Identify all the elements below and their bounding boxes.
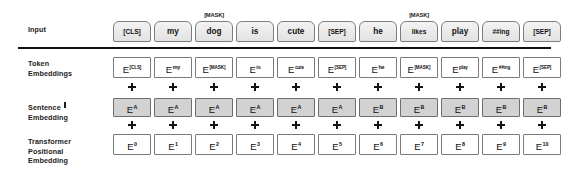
plus-icon [128, 83, 136, 91]
input-token-label: [CLS] [123, 28, 141, 35]
plus-icon [538, 83, 546, 91]
plus-slot [113, 82, 151, 92]
input-token-label: [SEP] [328, 28, 346, 35]
positional-embedding-symbol: E [250, 142, 256, 152]
positional-embedding-symbol: E [496, 142, 502, 152]
mask-annotation: [MASK] [204, 12, 224, 18]
plus-icon [374, 121, 382, 129]
plus-slot [482, 82, 520, 92]
positional-embedding-cell-0: E0 [113, 134, 151, 155]
token-embedding-subscript: my [173, 65, 181, 70]
plus-slot [113, 120, 151, 130]
sentence-embedding-symbol: E [455, 105, 461, 115]
positional-embedding-symbol: E [209, 142, 215, 152]
token-embedding-subscript: he [378, 65, 384, 70]
plus-icon [333, 83, 341, 91]
positional-embedding-symbol: E [455, 142, 461, 152]
plus-icon [292, 121, 300, 129]
sentence-embedding-symbol: E [127, 105, 133, 115]
positional-embedding-row: E0E1E2E3E4E5E6E7E8E9E10 [113, 134, 561, 155]
sentence-embedding-symbol: E [332, 105, 338, 115]
token-embedding-cell-8: Eplay [441, 57, 479, 78]
token-embedding-subscript: ##ing [499, 65, 511, 70]
sentence-embedding-subscript: B [380, 105, 384, 110]
positional-embedding-subscript: 6 [380, 142, 383, 147]
token-embedding-symbol: E [203, 65, 209, 75]
token-embedding-cell-6: Ehe [359, 57, 397, 78]
token-embedding-symbol: E [372, 65, 378, 75]
input-token-3[interactable]: is [236, 21, 274, 42]
positional-embedding-subscript: 7 [421, 142, 424, 147]
sentence-embedding-symbol: E [209, 105, 215, 115]
row-label-token-line2: Embeddings [28, 69, 110, 79]
plus-icon [292, 83, 300, 91]
dagger-mark [64, 102, 66, 108]
input-token-label: ##ing [492, 28, 509, 35]
sentence-embedding-subscript: B [421, 105, 425, 110]
positional-embedding-symbol: E [332, 142, 338, 152]
input-token-7[interactable]: likes[MASK] [400, 21, 438, 42]
input-token-1[interactable]: my [154, 21, 192, 42]
positional-embedding-cell-4: E4 [277, 134, 315, 155]
token-embedding-cell-4: Ecute [277, 57, 315, 78]
sentence-embedding-cell-6: EB [359, 98, 397, 117]
input-token-2[interactable]: dog[MASK] [195, 21, 233, 42]
token-embedding-subscript: [SEP] [335, 65, 347, 70]
plus-slot [441, 82, 479, 92]
row-label-token-embeddings: Token Embeddings [28, 59, 110, 78]
plus-icon [169, 121, 177, 129]
row-label-transformer-line1: Transformer [28, 137, 110, 147]
positional-embedding-subscript: 9 [503, 142, 506, 147]
positional-embedding-symbol: E [291, 142, 297, 152]
input-token-label: cute [288, 27, 305, 36]
input-token-label: likes [412, 28, 427, 35]
token-embedding-symbol: E [166, 65, 172, 75]
row-label-transformer-line3: Embedding [28, 156, 110, 166]
input-token-4[interactable]: cute [277, 21, 315, 42]
positional-embedding-subscript: 2 [216, 142, 219, 147]
positional-embedding-symbol: E [373, 142, 379, 152]
sentence-embedding-subscript: B [503, 105, 507, 110]
positional-embedding-cell-10: E10 [523, 134, 561, 155]
token-embedding-subscript: [CLS] [130, 65, 142, 70]
sentence-embedding-cell-8: EB [441, 98, 479, 117]
plus-slot [277, 82, 315, 92]
token-embedding-cell-0: E[CLS] [113, 57, 151, 78]
plus-slot [154, 82, 192, 92]
sentence-embedding-cell-10: EB [523, 98, 561, 117]
positional-embedding-symbol: E [536, 142, 542, 152]
plus-slot [523, 120, 561, 130]
positional-embedding-cell-6: E6 [359, 134, 397, 155]
plus-slot [236, 82, 274, 92]
row-label-sentence-line1: Sentence [28, 102, 110, 113]
positional-embedding-cell-1: E1 [154, 134, 192, 155]
input-token-8[interactable]: play [441, 21, 479, 42]
input-token-10[interactable]: [SEP] [523, 21, 561, 42]
plus-icon [456, 121, 464, 129]
sentence-embedding-cell-5: EA [318, 98, 356, 117]
token-embedding-subscript: play [459, 65, 468, 70]
sentence-embedding-symbol: E [291, 105, 297, 115]
positional-embedding-subscript: 5 [339, 142, 342, 147]
plus-slot [154, 120, 192, 130]
section-divider [18, 47, 551, 49]
token-embedding-subscript: is [256, 65, 260, 70]
sentence-embedding-symbol: E [168, 105, 174, 115]
positional-embedding-cell-5: E5 [318, 134, 356, 155]
plus-slot [277, 120, 315, 130]
input-token-9[interactable]: ##ing [482, 21, 520, 42]
sentence-embedding-cell-0: EA [113, 98, 151, 117]
input-token-5[interactable]: [SEP] [318, 21, 356, 42]
plus-icon [128, 121, 136, 129]
plus-slot [195, 82, 233, 92]
input-token-label: [SEP] [533, 28, 551, 35]
input-token-0[interactable]: [CLS] [113, 21, 151, 42]
token-embedding-cell-7: E[MASK] [400, 57, 438, 78]
positional-embedding-subscript: 1 [175, 142, 178, 147]
input-token-6[interactable]: he [359, 21, 397, 42]
plus-slot [195, 120, 233, 130]
positional-embedding-cell-3: E3 [236, 134, 274, 155]
plus-icon [251, 83, 259, 91]
plus-slot [318, 82, 356, 92]
positional-embedding-cell-7: E7 [400, 134, 438, 155]
